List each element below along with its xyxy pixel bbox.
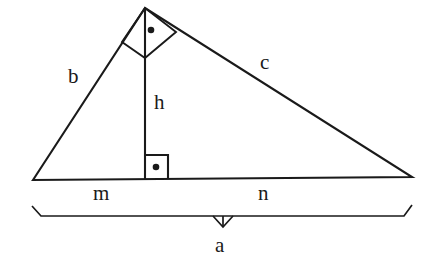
label-altitude-h: h [154, 92, 165, 113]
geometry-canvas [0, 0, 435, 268]
label-leg-b: b [68, 66, 79, 87]
hypotenuse-brace-icon [32, 205, 412, 226]
apex-right-angle-icon [122, 8, 176, 58]
base-right-angle-dot-icon [153, 164, 160, 171]
label-segment-m: m [93, 183, 109, 204]
apex-right-angle-dot-icon [148, 27, 155, 34]
triangle-outline [33, 8, 412, 180]
label-hypotenuse-a: a [215, 235, 224, 256]
geometry-figure: b c h m n a [0, 0, 435, 268]
label-segment-n: n [258, 183, 269, 204]
label-leg-c: c [260, 52, 269, 73]
